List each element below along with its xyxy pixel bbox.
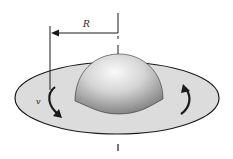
radius-arrowhead-icon: [51, 30, 59, 37]
radius-label: R: [82, 19, 90, 29]
velocity-label: v: [36, 97, 41, 106]
rotating-galaxy-disk-diagram: R v: [0, 0, 233, 159]
